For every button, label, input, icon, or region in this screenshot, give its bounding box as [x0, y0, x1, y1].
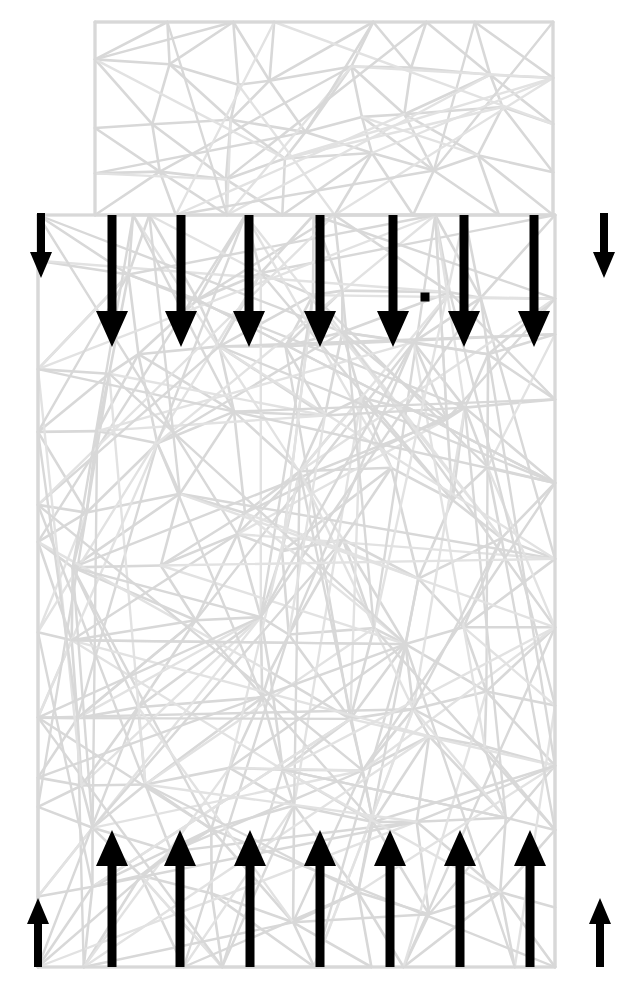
node-marker	[421, 293, 430, 302]
mesh-edge	[78, 718, 351, 719]
mesh-edge	[82, 785, 146, 786]
node-marker-layer	[421, 293, 430, 302]
fem-mesh-diagram	[0, 0, 642, 998]
mesh-edge	[293, 805, 294, 922]
mesh-edge	[38, 431, 97, 432]
figure-canvas	[0, 0, 642, 998]
